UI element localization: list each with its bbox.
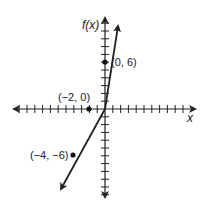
point-0-6: [102, 59, 107, 64]
point-neg2-0: [86, 106, 91, 111]
point-label-neg2-0: (−2, 0): [58, 91, 90, 103]
y-axis-label: f(x): [82, 18, 99, 32]
x-axis-label: x: [186, 111, 194, 125]
point-neg4-neg6: [70, 152, 75, 157]
point-label-neg4-neg6: (−4, −6): [30, 149, 69, 161]
point-label-0-6: (0, 6): [111, 56, 137, 68]
coordinate-plane: (0, 6) (−2, 0) (−4, −6) f(x) x: [0, 0, 207, 209]
